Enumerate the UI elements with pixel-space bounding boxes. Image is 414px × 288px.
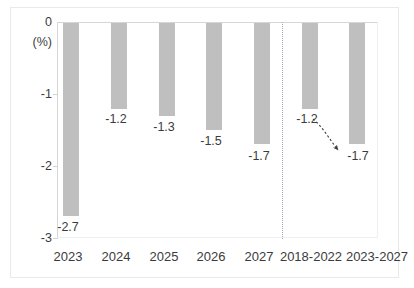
- bar-label-2018-2022: -1.2: [286, 113, 328, 126]
- x-tick-label-2026: 2026: [187, 250, 235, 263]
- y-tick-mark-3: [53, 238, 58, 239]
- bar-label-2026: -1.5: [190, 135, 232, 148]
- bar-label-2024: -1.2: [95, 113, 137, 126]
- y-tick-label-1: -1: [0, 88, 52, 101]
- bar-label-2023-2027: -1.7: [337, 150, 379, 163]
- x-tick-label-2025: 2025: [140, 250, 188, 263]
- bar-2023[interactable]: [63, 23, 79, 216]
- y-tick-label-2: -2: [0, 160, 52, 173]
- bar-label-2025: -1.3: [143, 121, 185, 134]
- bar-label-2027: -1.7: [238, 150, 280, 163]
- x-tick-label-2023-2027: 2023-2027: [344, 250, 410, 263]
- plot-area: [57, 22, 378, 238]
- x-tick-label-2018-2022: 2018-2022: [278, 250, 344, 263]
- bar-chart: 0 (%) -1 -2 -3 -2.7 -1.2 -1.3 -1.5 -1.7 …: [0, 0, 414, 288]
- bar-2027[interactable]: [254, 23, 270, 144]
- x-tick-label-2024: 2024: [92, 250, 140, 263]
- bar-2023-2027[interactable]: [349, 23, 365, 144]
- y-tick-label-0: 0: [0, 16, 52, 29]
- x-tick-label-2027: 2027: [235, 250, 283, 263]
- bar-label-2023: -2.7: [47, 221, 89, 234]
- bar-2026[interactable]: [206, 23, 222, 130]
- y-axis: 0 (%) -1 -2 -3: [0, 0, 52, 288]
- y-axis-unit-label: (%): [0, 36, 52, 49]
- bar-2025[interactable]: [159, 23, 175, 116]
- bar-2024[interactable]: [111, 23, 127, 109]
- y-tick-label-3: -3: [0, 232, 52, 245]
- period-separator: [282, 22, 283, 239]
- x-tick-label-2023: 2023: [44, 250, 92, 263]
- bar-2018-2022[interactable]: [302, 23, 318, 109]
